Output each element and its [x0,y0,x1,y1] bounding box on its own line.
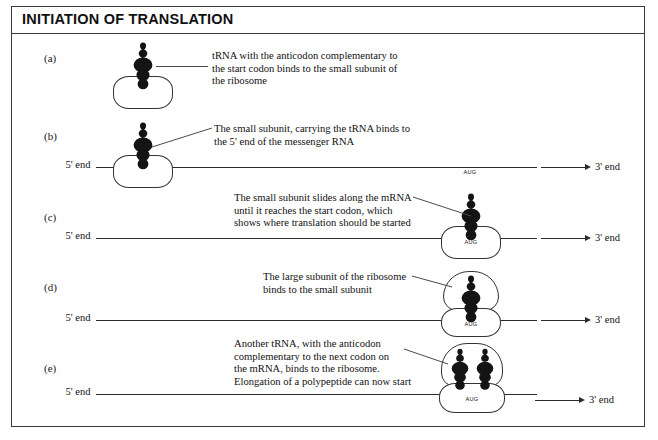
three-prime-arrow-shaft-e [535,400,579,401]
title-divider [12,33,644,34]
figure-title: INITIATION OF TRANSLATION [22,11,233,27]
leader-line-a [156,66,208,67]
trna-molecule-e-2 [470,347,500,397]
three-prime-end-b: 3' end [595,161,620,172]
five-prime-end-b: 5' end [62,159,94,171]
three-prime-arrow-head-d [585,317,591,323]
three-prime-arrow-head-b [585,164,591,170]
translation-initiation-figure: INITIATION OF TRANSLATION (a) tRNA with … [0,0,658,440]
caption-b: The small subunit, carrying the tRNA bin… [214,123,454,148]
leader-line-b [152,126,214,148]
caption-d: The large subunit of the ribosome binds … [263,271,493,296]
panel-letter-a: (a) [44,52,56,64]
three-prime-arrow-head-c [585,235,591,241]
three-prime-end-e: 3' end [589,394,614,405]
three-prime-end-d: 3' end [595,314,620,325]
panel-letter-c: (c) [44,211,56,223]
three-prime-arrow-shaft-d [541,320,585,321]
panel-letter-e: (e) [44,362,56,374]
three-prime-arrow-shaft-b [541,167,585,168]
three-prime-arrow-head-e [579,397,585,403]
five-prime-end-d: 5' end [62,312,94,324]
caption-c: The small subunit slides along the mRNA … [234,192,484,230]
panel-letter-d: (d) [44,281,57,293]
caption-e: Another tRNA, with the anticodon complem… [234,338,474,388]
panel-letter-b: (b) [44,130,57,142]
trna-molecule-a [126,42,160,96]
three-prime-end-c: 3' end [595,232,620,243]
codon-label-b: AUG [455,169,485,175]
three-prime-arrow-shaft-c [541,238,585,239]
five-prime-end-e: 5' end [62,386,94,398]
five-prime-end-c: 5' end [62,230,94,242]
caption-a: tRNA with the anticodon complementary to… [212,50,442,88]
